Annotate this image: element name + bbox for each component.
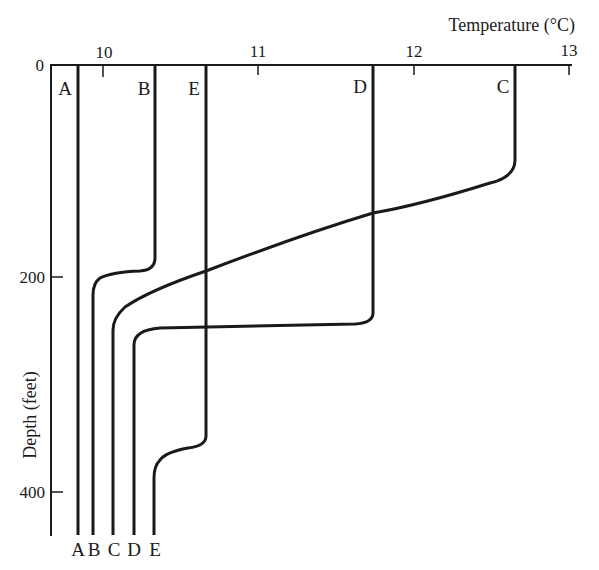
top-label-c: C [497,76,510,97]
y-tick-label-0: 0 [36,56,45,75]
y-tick-label-400: 400 [20,483,46,502]
bottom-label-e: E [149,539,161,560]
y-tick-label-200: 200 [20,268,46,287]
x-tick-label-12: 12 [406,42,423,61]
top-label-a: A [58,78,72,99]
bottom-label-b: B [88,539,101,560]
bottom-label-d: D [127,539,141,560]
x-tick-label-11: 11 [250,42,266,61]
profile-b [93,65,155,535]
bottom-label-c: C [108,539,121,560]
top-label-e: E [188,78,200,99]
y-axis-title: Depth (feet) [20,371,41,458]
top-label-d: D [353,76,367,97]
x-axis-title: Temperature (°C) [449,15,575,36]
profile-c [113,65,515,535]
top-label-b: B [138,78,151,99]
profile-d [134,65,373,535]
x-tick-label-13: 13 [561,41,578,60]
profile-e [154,65,206,535]
bottom-label-a: A [71,539,85,560]
temperature-depth-chart: 10 11 12 13 0 200 400 Temperature (°C) D… [0,0,599,570]
x-tick-label-10: 10 [96,43,113,62]
